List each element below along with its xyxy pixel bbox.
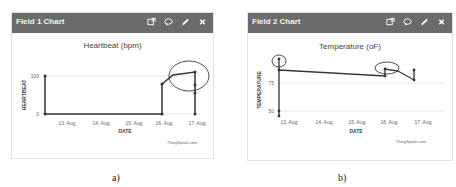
figure-caption-b: b) [338,172,346,183]
credit-link: ThingSpeak.com [396,139,427,144]
x-tick: 16. Aug [156,120,173,126]
x-axis-label: DATE [118,128,132,134]
x-tick: 13. Aug [281,119,298,125]
x-tick: 14. Aug [316,119,333,125]
y-tick: 0 [36,111,39,117]
chart-panel-field-2: Field 2 Chart Temperature (oF) 75 50 TEM… [247,12,453,161]
y-tick: 75 [268,80,274,86]
figure-caption-a: a) [112,172,120,183]
temperature-line-chart: 75 50 TEMPERATURE 13. Aug 14. Aug 15. Au… [248,13,454,162]
x-tick: 16. Aug [381,119,398,125]
x-tick: 13. Aug [59,120,76,126]
y-axis-label: TEMPERATURE [256,70,262,108]
x-tick: 14. Aug [93,120,110,126]
y-axis-label: HEARTBEAT [21,80,27,110]
annotation-circle [375,62,399,74]
x-axis-label: DATE [349,128,363,134]
credit-link: ThingSpeak.com [167,140,198,145]
chart-panel-field-1: Field 1 Chart Heartbeat (bpm) 100 0 HEAR… [11,12,214,159]
x-tick: 17. Aug [415,119,432,125]
y-tick: 100 [31,73,40,79]
y-tick: 50 [268,108,274,114]
heartbeat-line-chart: 100 0 HEARTBEAT 13. Aug 14. Aug 15. Aug … [12,13,215,160]
x-tick: 15. Aug [349,119,366,125]
x-tick: 15. Aug [126,120,143,126]
x-tick: 17. Aug [189,120,206,126]
